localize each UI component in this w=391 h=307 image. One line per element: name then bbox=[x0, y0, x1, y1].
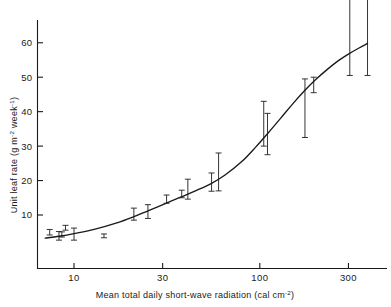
x-tick-label-30: 30 bbox=[157, 272, 168, 283]
fitted-curve bbox=[45, 43, 367, 238]
error-bar-point bbox=[185, 179, 191, 199]
error-bar-point bbox=[216, 153, 222, 191]
y-axis-title-tail: ) bbox=[9, 97, 19, 100]
x-axis-title: Mean total daily short-wave radiation (c… bbox=[96, 289, 295, 300]
x-axis-ticks bbox=[74, 263, 348, 269]
y-tick-label-30: 30 bbox=[21, 141, 32, 152]
y-tick-label-20: 20 bbox=[21, 175, 32, 186]
error-bar-point bbox=[101, 234, 107, 238]
y-tick-label-50: 50 bbox=[21, 72, 32, 83]
y-axis-ticks bbox=[38, 43, 44, 215]
error-bar-point bbox=[261, 101, 267, 146]
error-bar-series bbox=[47, 0, 371, 240]
error-bar-point bbox=[365, 0, 371, 75]
error-bar-point bbox=[47, 229, 53, 235]
x-tick-label-10: 10 bbox=[68, 272, 79, 283]
y-axis-title-middle: week bbox=[9, 106, 19, 131]
svg-text:Mean total daily short-wave ra: Mean total daily short-wave radiation (c… bbox=[96, 289, 295, 300]
y-tick-labels: 102030405060 bbox=[21, 37, 32, 220]
axis-spine bbox=[38, 20, 388, 269]
unit-leaf-rate-chart: 102030405060 1030100300 Mean total daily… bbox=[0, 0, 391, 307]
x-axis-title-text: Mean total daily short-wave radiation (c… bbox=[96, 290, 285, 300]
error-bar-point bbox=[347, 0, 353, 75]
y-axis-title: Unit leaf rate (g m-2 week-1) bbox=[8, 97, 19, 213]
y-axis-title-text: Unit leaf rate (g m bbox=[9, 137, 19, 213]
x-tick-label-300: 300 bbox=[340, 272, 357, 283]
y-tick-label-40: 40 bbox=[21, 106, 32, 117]
y-tick-label-10: 10 bbox=[21, 209, 32, 220]
y-tick-label-60: 60 bbox=[21, 37, 32, 48]
x-tick-label-100: 100 bbox=[251, 272, 268, 283]
fitted-curve-path bbox=[45, 43, 367, 238]
svg-text:Unit leaf rate (g m-2 week-1): Unit leaf rate (g m-2 week-1) bbox=[8, 97, 19, 213]
x-axis-title-tail: ) bbox=[291, 290, 294, 300]
chart-axes bbox=[38, 20, 388, 269]
error-bar-point bbox=[62, 225, 68, 230]
figure-container: 102030405060 1030100300 Mean total daily… bbox=[0, 0, 391, 307]
error-bar-point bbox=[131, 208, 137, 220]
x-tick-labels: 1030100300 bbox=[68, 272, 357, 283]
